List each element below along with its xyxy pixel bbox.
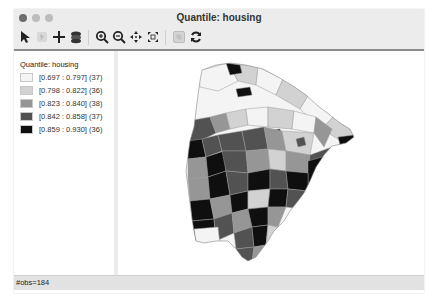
map-window: Quantile: housing <box>14 9 424 293</box>
legend-swatch <box>20 73 33 82</box>
legend-label: [0.859 : 0.930] (36) <box>39 125 102 134</box>
zoom-out-icon[interactable] <box>111 29 127 45</box>
toolbar-separator <box>88 30 89 45</box>
pan-icon[interactable] <box>128 29 144 45</box>
pointer-arrow-icon[interactable] <box>17 29 33 45</box>
legend-label: [0.842 : 0.858] (37) <box>39 112 102 121</box>
map-canvas[interactable] <box>118 51 424 275</box>
observation-count: #obs=184 <box>16 278 49 287</box>
toolbar-separator <box>165 30 166 45</box>
legend-swatch <box>20 99 33 108</box>
basemap-icon[interactable] <box>171 29 187 45</box>
legend-panel: Quantile: housing [0.697 : 0.797] (37) [… <box>14 51 118 275</box>
choropleth-map[interactable] <box>118 51 424 275</box>
legend-item[interactable]: [0.798 : 0.822] (36) <box>20 85 102 95</box>
legend-item[interactable]: [0.697 : 0.797] (37) <box>20 72 102 82</box>
title-bar: Quantile: housing <box>14 9 424 27</box>
legend-swatch <box>20 112 33 121</box>
legend-item[interactable]: [0.823 : 0.840] (38) <box>20 98 102 108</box>
legend-item[interactable]: [0.842 : 0.858] (37) <box>20 111 102 121</box>
full-extent-icon[interactable] <box>145 29 161 45</box>
legend-title: Quantile: housing <box>20 60 78 69</box>
layers-icon[interactable] <box>68 29 84 45</box>
legend-label: [0.697 : 0.797] (37) <box>39 73 102 82</box>
selection-icon[interactable] <box>34 29 50 45</box>
zoom-in-icon[interactable] <box>94 29 110 45</box>
legend-label: [0.798 : 0.822] (36) <box>39 86 102 95</box>
legend-swatch <box>20 86 33 95</box>
refresh-icon[interactable] <box>188 29 204 45</box>
window-title: Quantile: housing <box>14 12 424 23</box>
toolbar <box>14 27 424 51</box>
legend-label: [0.823 : 0.840] (38) <box>39 99 102 108</box>
legend-item[interactable]: [0.859 : 0.930] (36) <box>20 124 102 134</box>
plus-icon[interactable] <box>51 29 67 45</box>
status-bar: #obs=184 <box>14 275 424 290</box>
legend-swatch <box>20 125 33 134</box>
